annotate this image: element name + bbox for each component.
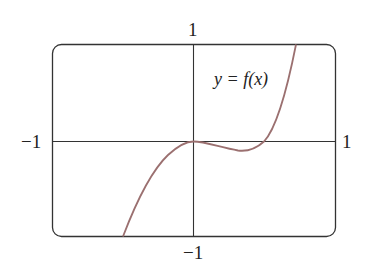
y-min-label: −1 xyxy=(183,243,203,262)
function-curve xyxy=(123,45,296,237)
equation-label: y = f(x) xyxy=(214,69,268,90)
y-max-label: 1 xyxy=(188,20,198,39)
graph-canvas xyxy=(0,0,371,276)
x-max-label: 1 xyxy=(342,132,352,151)
x-min-label: −1 xyxy=(21,132,41,151)
